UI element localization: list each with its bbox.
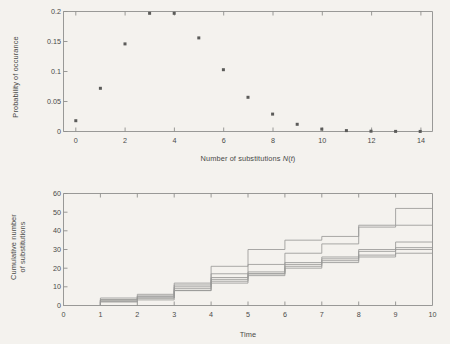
bottom-xtick-6: 6 [279,310,291,319]
data-point-marker [99,87,102,90]
bottom-y-ticks [64,194,68,306]
data-point-marker [394,130,397,133]
bottom-xtick-4: 4 [205,310,217,319]
step-trajectory-line [64,225,433,305]
panel-probability-distribution: Probability of occurance [0,0,450,172]
top-data-markers [74,12,421,133]
bottom-ytick-40: 40 [41,226,61,235]
top-y-ticks [64,12,68,132]
panel-cumulative-substitutions: Cumulative number of substitutions [0,172,450,344]
top-ytick-0: 0 [53,127,61,136]
bottom-ytick-20: 20 [41,264,61,273]
top-xtick-10: 10 [316,136,328,145]
bottom-xtick-8: 8 [353,310,365,319]
data-point-marker [271,113,274,116]
top-x-ticks [76,12,421,132]
top-x-axis-label-prefix: Number of substitutions [201,154,283,163]
top-ytick-005: 0.05 [33,97,61,106]
top-xtick-2: 2 [119,136,131,145]
bottom-ytick-50: 50 [41,208,61,217]
top-xtick-8: 8 [267,136,279,145]
data-point-marker [197,36,200,39]
top-plot-svg [0,0,450,172]
top-ytick-015: 0.15 [33,37,61,46]
bottom-xtick-7: 7 [316,310,328,319]
top-xtick-4: 4 [168,136,180,145]
bottom-xtick-0: 0 [58,310,70,319]
top-xtick-0: 0 [70,136,82,145]
bottom-ytick-0: 0 [41,301,61,310]
bottom-xtick-1: 1 [94,310,106,319]
data-point-marker [124,42,127,45]
bottom-xtick-2: 2 [131,310,143,319]
bottom-ytick-60: 60 [41,189,61,198]
figure-container: Probability of occurance [0,0,450,344]
bottom-xtick-10: 10 [427,310,439,319]
data-point-marker [296,123,299,126]
top-x-axis-label: Number of substitutions N(t) [148,154,348,163]
bottom-x-axis-label: Time [198,330,298,339]
bottom-xtick-9: 9 [390,310,402,319]
bottom-ytick-30: 30 [41,245,61,254]
top-ytick-01: 0.1 [37,67,61,76]
bottom-xtick-5: 5 [242,310,254,319]
top-xtick-6: 6 [218,136,230,145]
bottom-step-trajectories [64,208,433,305]
data-point-marker [222,68,225,71]
top-xtick-14: 14 [415,136,427,145]
data-point-marker [173,12,176,15]
data-point-marker [370,130,373,133]
data-point-marker [419,130,422,133]
top-ytick-02: 0.2 [37,7,61,16]
data-point-marker [148,12,151,15]
data-point-marker [345,129,348,132]
top-x-axis-label-paren-close: ) [293,154,296,163]
top-xtick-12: 12 [366,136,378,145]
bottom-ytick-10: 10 [41,282,61,291]
data-point-marker [247,96,250,99]
data-point-marker [74,119,77,122]
bottom-xtick-3: 3 [168,310,180,319]
data-point-marker [320,128,323,131]
